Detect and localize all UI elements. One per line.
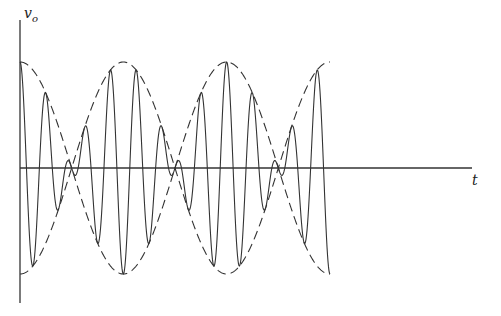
waveform-plot [0,0,501,316]
y-label-subscript: o [32,13,38,24]
x-axis-label: t [472,172,478,188]
y-axis-label: vo [24,5,38,24]
y-label-main: v [24,5,32,21]
